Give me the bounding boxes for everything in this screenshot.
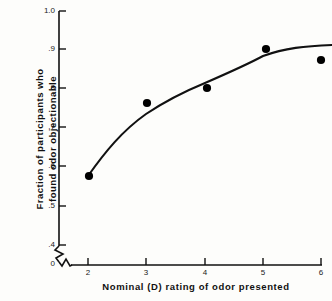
x-tick-label-4: 4 [197, 268, 213, 277]
y-axis-title-line-1: Fraction of participants who [33, 14, 46, 264]
data-point [203, 84, 211, 92]
fitted-curve [88, 45, 332, 176]
data-point [317, 56, 325, 64]
chart-figure: 1.0 .9 .8 .7 .6 .5 .4 0 2 3 4 5 6 Nomina… [0, 0, 332, 301]
data-point [143, 99, 151, 107]
x-tick-label-6: 6 [313, 268, 329, 277]
x-tick-label-3: 3 [138, 268, 154, 277]
x-tick-label-5: 5 [255, 268, 271, 277]
data-point [262, 45, 270, 53]
x-axis-break-icon [59, 259, 72, 266]
data-point [85, 172, 93, 180]
x-tick-label-2: 2 [80, 268, 96, 277]
y-axis-title-line-2: found odor objectionable [46, 14, 59, 264]
x-axis-title: Nominal (D) rating of odor presented [60, 281, 332, 292]
y-axis-title: Fraction of participants who found odor … [33, 14, 59, 264]
